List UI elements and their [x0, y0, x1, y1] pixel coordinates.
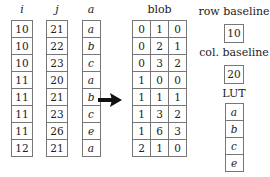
- lut-table: a b c e: [225, 103, 244, 172]
- cell: 21: [47, 89, 68, 106]
- cell: 2: [133, 140, 151, 157]
- right-arrow-icon: [98, 93, 122, 107]
- cell: 21: [47, 21, 68, 38]
- cell: 1: [133, 72, 151, 89]
- baseline-panel: row baseline 10 col. baseline 20 LUT a b…: [198, 5, 270, 172]
- cell: 20: [47, 72, 68, 89]
- cell: 0: [169, 21, 187, 38]
- cell: 2: [151, 38, 169, 55]
- cell: 1: [133, 89, 151, 106]
- cell: a: [82, 72, 100, 89]
- blob-row: 210: [133, 140, 187, 157]
- cell: 23: [47, 106, 68, 123]
- cell: 3: [151, 106, 169, 123]
- cell: 1: [169, 38, 187, 55]
- column-i: i 10 10 10 11 11 11 11 12: [10, 0, 34, 157]
- cell: 10: [12, 38, 33, 55]
- cell: 6: [151, 123, 169, 140]
- column-a-header: a: [81, 0, 101, 20]
- cell: c: [82, 106, 100, 123]
- cell: 1: [151, 140, 169, 157]
- cell: a: [82, 140, 100, 157]
- cell: e: [82, 123, 100, 140]
- cell: c: [225, 138, 243, 155]
- blob-row: 111: [133, 89, 187, 106]
- blob-row: 032: [133, 55, 187, 72]
- cell: 0: [169, 140, 187, 157]
- row-baseline-value: 10: [224, 24, 244, 43]
- cell: 12: [12, 140, 33, 157]
- cell: 11: [12, 72, 33, 89]
- cell: 10: [12, 55, 33, 72]
- cell: 0: [151, 72, 169, 89]
- cell: 0: [133, 38, 151, 55]
- cell: 23: [47, 55, 68, 72]
- cell: c: [82, 55, 100, 72]
- cell: 1: [151, 89, 169, 106]
- col-baseline-label: col. baseline: [198, 46, 270, 60]
- cell: a: [82, 21, 100, 38]
- column-j-header: j: [45, 0, 69, 20]
- cell: b: [82, 38, 100, 55]
- cell: 2: [169, 55, 187, 72]
- cell: 26: [47, 123, 68, 140]
- cell: 0: [133, 55, 151, 72]
- blob-row: 010: [133, 21, 187, 38]
- column-a: a a b c a b c e a: [81, 0, 101, 157]
- cell: 1: [151, 21, 169, 38]
- cell: 11: [12, 89, 33, 106]
- blob-table: 010 021 032 100 111 132 163 210: [132, 20, 187, 157]
- column-i-table: 10 10 10 11 11 11 11 12: [11, 20, 33, 157]
- cell: 1: [133, 106, 151, 123]
- cell: 3: [151, 55, 169, 72]
- column-j-table: 21 22 23 20 21 23 26 21: [46, 20, 68, 157]
- cell: 22: [47, 38, 68, 55]
- cell: 2: [169, 106, 187, 123]
- column-j: j 21 22 23 20 21 23 26 21: [45, 0, 69, 157]
- row-baseline-label: row baseline: [198, 5, 270, 19]
- cell: 1: [133, 123, 151, 140]
- blob: blob 010 021 032 100 111 132 163 210: [131, 0, 188, 157]
- cell: 0: [169, 72, 187, 89]
- cell: 11: [12, 106, 33, 123]
- column-a-table: a b c a b c e a: [82, 20, 101, 157]
- cell: 10: [12, 21, 33, 38]
- blob-header: blob: [131, 0, 188, 20]
- cell: b: [225, 121, 243, 138]
- cell: 3: [169, 123, 187, 140]
- cell: 11: [12, 123, 33, 140]
- cell: a: [225, 104, 243, 121]
- col-baseline-value: 20: [224, 65, 244, 84]
- lut-label: LUT: [198, 87, 270, 101]
- blob-row: 132: [133, 106, 187, 123]
- blob-row: 100: [133, 72, 187, 89]
- column-i-header: i: [10, 0, 34, 20]
- cell: 21: [47, 140, 68, 157]
- cell: 0: [133, 21, 151, 38]
- blob-row: 163: [133, 123, 187, 140]
- cell: e: [225, 155, 243, 172]
- cell: 1: [169, 89, 187, 106]
- blob-row: 021: [133, 38, 187, 55]
